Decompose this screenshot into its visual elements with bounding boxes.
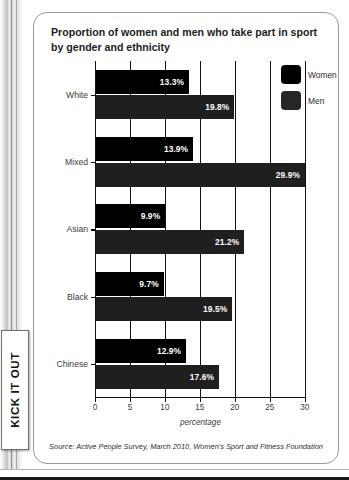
brand-tab: KICK IT OUT	[1, 330, 29, 450]
bar-women: 13.3%	[96, 70, 189, 94]
x-axis-tick-label: 25	[265, 403, 274, 412]
x-axis-tick-label: 0	[93, 403, 98, 412]
bar-value-label: 12.9%	[157, 346, 181, 356]
legend-label-men: Men	[308, 96, 324, 106]
legend-swatch-men-icon	[281, 91, 301, 110]
x-axis-tick-label: 10	[160, 403, 169, 412]
page-bottom-edge	[0, 469, 349, 477]
x-axis-tick	[305, 398, 306, 402]
y-axis-tick	[91, 364, 95, 365]
category-label: White	[66, 90, 88, 100]
legend-item-women: Women	[281, 65, 349, 84]
bar-chart: White13.3%19.8%Mixed13.9%29.9%Asian9.9%2…	[62, 61, 324, 406]
bar-value-label: 9.7%	[139, 279, 159, 289]
page-root: KICK IT OUT Proportion of women and men …	[0, 0, 349, 480]
bar-women: 13.9%	[96, 137, 193, 161]
bar-value-label: 19.5%	[203, 304, 227, 314]
bar-value-label: 29.9%	[276, 170, 300, 180]
category-label: Black	[67, 292, 88, 302]
category-label: Chinese	[56, 359, 88, 369]
x-axis-tick-label: 20	[230, 403, 239, 412]
bar-group: Mixed13.9%29.9%	[95, 128, 306, 195]
bar-men: 19.8%	[96, 95, 234, 119]
bar-men: 21.2%	[96, 230, 244, 254]
y-axis-tick	[91, 229, 95, 230]
bar-group: Black9.7%19.5%	[95, 263, 306, 330]
bar-men: 17.6%	[96, 365, 219, 389]
bar-value-label: 9.9%	[141, 211, 161, 221]
x-axis-tick-label: 15	[195, 403, 204, 412]
category-label: Mixed	[65, 157, 88, 167]
bar-value-label: 13.3%	[160, 77, 184, 87]
bar-group: Chinese12.9%17.6%	[95, 331, 306, 398]
chart-legend: Women Men	[281, 65, 349, 117]
legend-item-men: Men	[281, 91, 349, 110]
x-axis-tick	[165, 398, 166, 402]
page-title: Proportion of women and men who take par…	[51, 25, 323, 55]
bar-group: White13.3%19.8%	[95, 61, 306, 128]
x-axis-tick	[235, 398, 236, 402]
x-axis-tick	[130, 398, 131, 402]
bar-value-label: 21.2%	[215, 237, 239, 247]
bar-value-label: 17.6%	[190, 372, 214, 382]
bar-women: 9.7%	[96, 272, 164, 296]
x-axis-tick-label: 5	[128, 403, 133, 412]
y-axis-tick	[91, 297, 95, 298]
brand-tab-label: KICK IT OUT	[9, 352, 21, 428]
legend-label-women: Women	[308, 70, 337, 80]
bar-women: 12.9%	[96, 339, 186, 363]
bar-men: 19.5%	[96, 297, 232, 321]
source-note: Source: Active People Survey, March 2010…	[34, 442, 338, 451]
legend-swatch-women-icon	[281, 65, 301, 84]
x-axis-title: percentage	[95, 418, 306, 427]
y-axis-tick	[91, 95, 95, 96]
x-axis-tick	[95, 398, 96, 402]
x-axis-tick	[200, 398, 201, 402]
plot-area: White13.3%19.8%Mixed13.9%29.9%Asian9.9%2…	[95, 61, 306, 398]
y-axis-tick	[91, 162, 95, 163]
category-label: Asian	[67, 224, 89, 234]
bar-women: 9.9%	[96, 204, 165, 228]
x-axis-tick	[270, 398, 271, 402]
x-axis-tick-label: 30	[300, 403, 309, 412]
bar-value-label: 13.9%	[164, 144, 188, 154]
chart-card: Proportion of women and men who take par…	[33, 12, 339, 464]
bar-men: 29.9%	[96, 163, 305, 187]
bar-value-label: 19.8%	[205, 102, 229, 112]
bar-group: Asian9.9%21.2%	[95, 196, 306, 263]
